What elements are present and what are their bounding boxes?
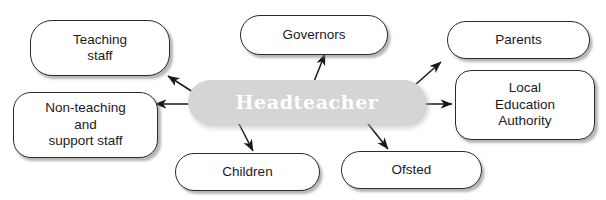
node-parents-label: Parents	[495, 32, 542, 48]
node-parents[interactable]: Parents	[447, 21, 590, 59]
diagram-canvas: Headteacher Teaching staff Governors Par…	[0, 0, 606, 200]
node-non-teaching-support-staff[interactable]: Non-teaching and support staff	[13, 92, 158, 158]
node-teaching-staff-label: Teaching staff	[73, 32, 127, 65]
node-teaching-staff[interactable]: Teaching staff	[30, 20, 170, 76]
node-non-teaching-support-staff-label: Non-teaching and support staff	[45, 100, 125, 149]
node-local-education-authority[interactable]: Local Education Authority	[455, 70, 595, 140]
arrow-to-ofsted	[365, 120, 388, 149]
node-governors-label: Governors	[282, 27, 345, 43]
node-headteacher-label: Headteacher	[236, 91, 379, 113]
node-ofsted[interactable]: Ofsted	[341, 151, 482, 189]
arrow-to-children	[237, 120, 253, 151]
node-headteacher[interactable]: Headteacher	[188, 80, 426, 124]
node-local-education-authority-label: Local Education Authority	[495, 80, 555, 129]
node-governors[interactable]: Governors	[240, 15, 388, 55]
node-ofsted-label: Ofsted	[392, 162, 432, 178]
node-children-label: Children	[222, 164, 272, 180]
node-children[interactable]: Children	[175, 153, 320, 191]
